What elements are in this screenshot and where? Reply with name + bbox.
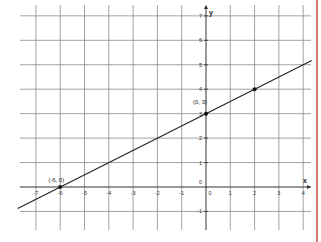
- x-tick-label: -3: [131, 190, 136, 196]
- x-tick-label: 0: [208, 190, 211, 196]
- x-tick-label: -1: [179, 190, 184, 196]
- point-marker: [253, 87, 257, 91]
- y-axis-label: y: [209, 9, 213, 17]
- y-tick-label: 0: [199, 179, 202, 185]
- x-tick-label: 4: [302, 190, 305, 196]
- x-tick-label: -2: [155, 190, 160, 196]
- grid-lines: [20, 5, 311, 230]
- point-label: (0, 3): [193, 99, 207, 105]
- x-tick-label: -6: [58, 190, 63, 196]
- x-tick-label: 3: [277, 190, 280, 196]
- x-axis-label: x: [303, 177, 307, 184]
- y-tick-label: -1: [197, 208, 202, 214]
- point-label: (-6, 0): [48, 177, 64, 183]
- y-tick-label: 2: [199, 135, 202, 141]
- y-tick-label: 4: [199, 86, 202, 92]
- axes: [20, 5, 311, 230]
- x-tick-label: 2: [253, 190, 256, 196]
- point-marker: [204, 112, 208, 116]
- x-tick-label: -5: [82, 190, 87, 196]
- point-marker: [58, 185, 62, 189]
- y-tick-label: 6: [199, 37, 202, 43]
- x-axis-arrow-icon: [307, 185, 311, 189]
- y-tick-label: 5: [199, 62, 202, 68]
- y-tick-label: 7: [199, 13, 202, 19]
- y-tick-label: 1: [199, 160, 202, 166]
- x-tick-label: 1: [229, 190, 232, 196]
- page-border-line: [316, 0, 318, 242]
- x-tick-label: -4: [106, 190, 111, 196]
- x-tick-label: -7: [33, 190, 38, 196]
- y-axis-arrow-icon: [204, 5, 208, 9]
- coordinate-plane: -7-6-5-4-3-2-101234-101234567 (-6, 0)(0,…: [0, 0, 321, 242]
